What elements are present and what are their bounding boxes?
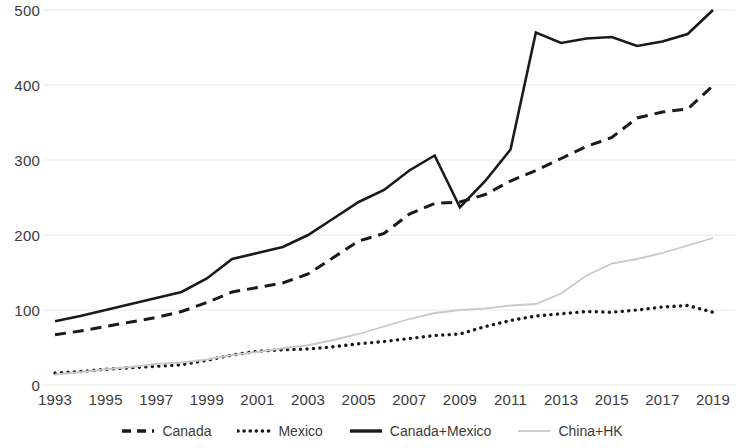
x-axis: 1993199519971999200120032005200720092011… bbox=[0, 392, 744, 414]
x-tick-label: 2011 bbox=[494, 392, 527, 407]
y-tick-label: 100 bbox=[0, 303, 40, 318]
x-tick-label: 1997 bbox=[139, 392, 173, 407]
y-tick-label: 200 bbox=[0, 228, 40, 243]
x-tick-label: 2009 bbox=[443, 392, 477, 407]
x-tick-label: 2017 bbox=[645, 392, 679, 407]
dashed-line-key bbox=[121, 425, 155, 437]
dotted-line-key bbox=[237, 425, 271, 437]
y-tick-label: 500 bbox=[0, 3, 40, 18]
legend-label: Canada bbox=[162, 424, 211, 438]
solid-line-key bbox=[349, 425, 383, 437]
legend-item-china-plus-hk[interactable]: China+HK bbox=[517, 424, 622, 438]
series-line-china-plus-hk bbox=[55, 238, 713, 375]
x-tick-label: 2019 bbox=[696, 392, 730, 407]
series-line-canada-plus-mexico bbox=[55, 10, 713, 321]
series-line-canada bbox=[55, 86, 713, 335]
legend-label: Mexico bbox=[278, 424, 322, 438]
x-tick-label: 2003 bbox=[291, 392, 325, 407]
y-axis: 500 400 300 200 100 0 bbox=[0, 0, 40, 392]
x-tick-label: 1995 bbox=[89, 392, 123, 407]
legend-item-canada[interactable]: Canada bbox=[121, 424, 211, 438]
x-tick-label: 2005 bbox=[342, 392, 376, 407]
y-tick-label: 0 bbox=[0, 378, 40, 393]
legend-label: Canada+Mexico bbox=[390, 424, 492, 438]
x-tick-label: 2007 bbox=[392, 392, 426, 407]
y-tick-label: 400 bbox=[0, 78, 40, 93]
series-line-mexico bbox=[55, 306, 713, 374]
chart-legend: CanadaMexicoCanada+MexicoChina+HK bbox=[0, 418, 744, 444]
legend-item-mexico[interactable]: Mexico bbox=[237, 424, 322, 438]
plot-area bbox=[0, 0, 744, 448]
x-tick-label: 2013 bbox=[544, 392, 578, 407]
x-tick-label: 1993 bbox=[38, 392, 72, 407]
x-tick-label: 2015 bbox=[595, 392, 629, 407]
y-tick-label: 300 bbox=[0, 153, 40, 168]
legend-label: China+HK bbox=[558, 424, 622, 438]
x-tick-label: 1999 bbox=[190, 392, 224, 407]
legend-item-canada-plus-mexico[interactable]: Canada+Mexico bbox=[349, 424, 492, 438]
gridlines bbox=[43, 10, 735, 385]
series-lines bbox=[55, 10, 713, 375]
line-chart: 500 400 300 200 100 0 199319951997199920… bbox=[0, 0, 744, 448]
x-tick-label: 2001 bbox=[240, 392, 274, 407]
light-line-key bbox=[517, 425, 551, 437]
